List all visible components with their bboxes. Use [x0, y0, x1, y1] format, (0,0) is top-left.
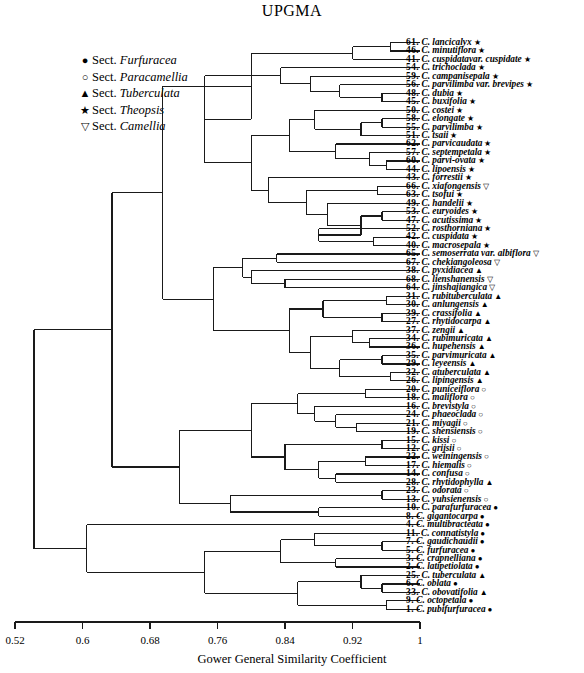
section-symbol-icon: ▲	[481, 317, 491, 326]
section-symbol-icon: ●	[491, 503, 498, 512]
axis-tick-label: 0.76	[208, 634, 227, 646]
leaf-label: 1. C. pubifurfuracea ●	[406, 605, 492, 613]
axis-tick-label: 0.84	[275, 634, 294, 646]
axis-tick-label: 0.68	[140, 634, 159, 646]
section-symbol-icon: ★	[524, 80, 533, 89]
section-symbol-icon: ▲	[483, 478, 493, 487]
section-symbol-icon: ▲	[476, 571, 486, 580]
section-symbol-icon: ★	[467, 97, 476, 106]
section-symbol-icon: ▲	[478, 588, 488, 597]
section-symbol-icon: ★	[522, 55, 531, 64]
axis-title: Gower General Similarity Coefficient	[0, 652, 584, 667]
section-symbol-icon: ○	[476, 427, 483, 436]
section-symbol-icon: ▲	[487, 351, 497, 360]
section-symbol-icon: ○	[476, 410, 483, 419]
section-symbol-icon: ○	[482, 452, 489, 461]
axis-tick-label: 0.52	[5, 634, 24, 646]
section-symbol-icon: ●	[478, 537, 485, 546]
section-symbol-icon: ▲	[492, 292, 502, 301]
axis-tick-label: 0.92	[343, 634, 362, 646]
section-symbol-icon: ★	[482, 224, 491, 233]
section-symbol-icon: ○	[479, 385, 486, 394]
section-symbol-icon: ▽	[492, 258, 500, 267]
section-symbol-icon: ★	[476, 156, 485, 165]
axis-tick-label: 0.6	[76, 634, 90, 646]
upgma-dendrogram-figure: UPGMA ●Sect. Furfuracea○Sect. Paracamell…	[0, 0, 584, 673]
leaf-label-list: 61. C. lancicalyx ★46. C. minutiflora ★4…	[0, 0, 584, 673]
axis-tick-label: 1	[417, 634, 423, 646]
section-symbol-icon: ★	[474, 123, 483, 132]
section-symbol-icon: ▽	[531, 249, 539, 258]
section-symbol-icon: ●	[486, 605, 493, 614]
section-symbol-icon: ▽	[481, 182, 489, 191]
